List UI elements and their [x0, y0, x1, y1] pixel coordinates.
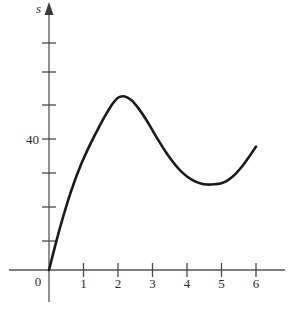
- y-tick-label-40: 40: [26, 133, 39, 146]
- origin-label: 0: [35, 275, 42, 288]
- graph-figure: s 0 1 2 3 4 5 6 40: [0, 0, 289, 314]
- plot-canvas: [0, 0, 289, 314]
- x-tick-label-2: 2: [115, 277, 122, 290]
- x-tick-label-3: 3: [149, 277, 156, 290]
- x-tick-label-6: 6: [253, 277, 260, 290]
- y-axis-label: s: [36, 2, 41, 15]
- x-tick-label-4: 4: [184, 277, 191, 290]
- data-curve: [49, 96, 256, 270]
- x-tick-label-5: 5: [218, 277, 225, 290]
- y-axis-arrowhead: [45, 2, 54, 15]
- x-tick-label-1: 1: [80, 277, 87, 290]
